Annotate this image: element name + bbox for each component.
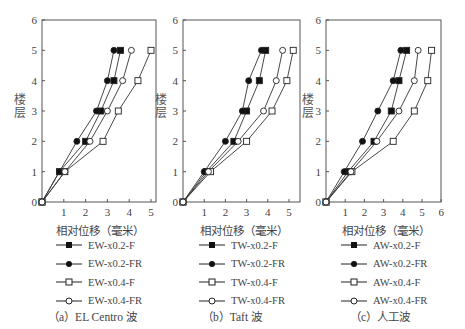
x-tick-label: 2 bbox=[362, 206, 368, 218]
open-square-marker-icon bbox=[429, 47, 435, 53]
open-circle-marker-icon bbox=[128, 47, 134, 53]
y-tick-label: 1 bbox=[316, 166, 322, 178]
open-circle-marker-icon bbox=[104, 108, 110, 114]
series-line bbox=[183, 50, 293, 202]
open-circle-marker-icon bbox=[56, 297, 82, 305]
open-circle-marker-icon bbox=[180, 199, 186, 205]
legend-item: EW-x0.2-F bbox=[56, 236, 142, 255]
y-label-char: 层 bbox=[155, 107, 168, 120]
y-tick-label: 0 bbox=[316, 196, 322, 208]
y-tick-label: 2 bbox=[173, 135, 179, 147]
caption-b: （b）Taft 波 bbox=[202, 308, 262, 324]
open-square-marker-icon bbox=[56, 278, 82, 286]
x-tick-label: 3 bbox=[244, 206, 250, 218]
y-tick-label: 5 bbox=[173, 44, 179, 56]
y-tick-label: 2 bbox=[316, 135, 322, 147]
open-circle-marker-icon bbox=[87, 138, 93, 144]
y-tick-label: 5 bbox=[316, 44, 322, 56]
series-line bbox=[183, 50, 266, 202]
open-circle-marker-icon bbox=[120, 78, 126, 84]
x-tick-label: 2 bbox=[83, 206, 89, 218]
x-tick-label: 1 bbox=[61, 206, 67, 218]
open-square-marker-icon bbox=[290, 47, 296, 53]
y-tick-label: 0 bbox=[32, 196, 38, 208]
legend-label: TW-x0.4-F bbox=[231, 277, 278, 288]
open-circle-marker-icon bbox=[280, 47, 286, 53]
series-line bbox=[183, 50, 283, 202]
legend-a: EW-x0.2-F EW-x0.2-FR EW-x0.4-F EW-x0.4-F… bbox=[56, 236, 142, 310]
open-square-marker-icon bbox=[284, 78, 290, 84]
open-square-marker-icon bbox=[244, 138, 250, 144]
open-circle-marker-icon bbox=[415, 47, 421, 53]
filled-square-marker-icon bbox=[404, 47, 410, 53]
filled-circle-marker-icon bbox=[199, 260, 225, 268]
series-line bbox=[326, 50, 407, 202]
series-line bbox=[183, 50, 261, 202]
series-line bbox=[326, 50, 432, 202]
y-tick-label: 1 bbox=[173, 166, 179, 178]
y-tick-label: 6 bbox=[316, 14, 322, 26]
legend-item: AW-x0.2-FR bbox=[341, 255, 427, 274]
filled-circle-marker-icon bbox=[74, 138, 80, 144]
open-square-marker-icon bbox=[148, 47, 154, 53]
open-circle-marker-icon bbox=[341, 297, 367, 305]
filled-circle-marker-icon bbox=[390, 78, 396, 84]
legend-label: AW-x0.4-FR bbox=[373, 295, 427, 306]
y-tick-label: 0 bbox=[173, 196, 179, 208]
caption-a: （a）EL Centro 波 bbox=[48, 308, 137, 324]
y-label-char: 层 bbox=[302, 107, 315, 120]
open-circle-marker-icon bbox=[235, 138, 241, 144]
legend-label: AW-x0.4-F bbox=[373, 277, 420, 288]
x-tick-label: 1 bbox=[342, 206, 348, 218]
legend-label: TW-x0.2-F bbox=[231, 240, 278, 251]
y-tick-label: 2 bbox=[32, 135, 38, 147]
open-circle-marker-icon bbox=[62, 169, 68, 175]
x-tick-label: 6 bbox=[438, 206, 444, 218]
legend-item: AW-x0.4-F bbox=[341, 273, 427, 292]
open-square-marker-icon bbox=[425, 78, 431, 84]
legend-b: TW-x0.2-F TW-x0.2-FR TW-x0.4-F TW-x0.4-F… bbox=[199, 236, 285, 310]
open-circle-marker-icon bbox=[261, 108, 267, 114]
legend-label: TW-x0.4-FR bbox=[231, 295, 285, 306]
legend-item: EW-x0.4-F bbox=[56, 273, 142, 292]
filled-square-marker-icon bbox=[117, 47, 123, 53]
y-tick-label: 4 bbox=[173, 75, 179, 87]
chart-panel-b: 012345612345 bbox=[173, 14, 301, 218]
filled-square-marker-icon bbox=[396, 78, 402, 84]
open-square-marker-icon bbox=[411, 108, 417, 114]
chart-panel-c: 0123456123456 bbox=[316, 14, 445, 218]
y-tick-label: 3 bbox=[316, 105, 322, 117]
filled-circle-marker-icon bbox=[246, 78, 252, 84]
x-tick-label: 4 bbox=[265, 206, 271, 218]
x-tick-label: 3 bbox=[381, 206, 387, 218]
filled-circle-marker-icon bbox=[239, 108, 245, 114]
caption-c: （c）人工波 bbox=[350, 308, 410, 324]
legend-item: AW-x0.2-F bbox=[341, 236, 427, 255]
legend-label: EW-x0.4-F bbox=[88, 277, 135, 288]
filled-circle-marker-icon bbox=[258, 47, 264, 53]
filled-circle-marker-icon bbox=[104, 78, 110, 84]
legend-item: TW-x0.2-F bbox=[199, 236, 285, 255]
filled-square-marker-icon bbox=[56, 241, 82, 249]
y-tick-label: 4 bbox=[32, 75, 38, 87]
y-axis-label-a: 楼 层 bbox=[14, 94, 27, 120]
y-axis-label-c: 楼 层 bbox=[302, 94, 315, 120]
open-circle-marker-icon bbox=[273, 78, 279, 84]
open-circle-marker-icon bbox=[396, 108, 402, 114]
legend-item: TW-x0.4-F bbox=[199, 273, 285, 292]
x-tick-label: 4 bbox=[126, 206, 132, 218]
legend-item: TW-x0.2-FR bbox=[199, 255, 285, 274]
open-circle-marker-icon bbox=[348, 169, 354, 175]
open-circle-marker-icon bbox=[374, 138, 380, 144]
y-tick-label: 1 bbox=[32, 166, 38, 178]
series-line bbox=[42, 50, 114, 202]
legend-label: AW-x0.2-F bbox=[373, 240, 420, 251]
open-circle-marker-icon bbox=[39, 199, 45, 205]
y-tick-label: 4 bbox=[316, 75, 322, 87]
filled-square-marker-icon bbox=[388, 108, 394, 114]
filled-circle-marker-icon bbox=[222, 138, 228, 144]
filled-square-marker-icon bbox=[111, 78, 117, 84]
open-square-marker-icon bbox=[199, 278, 225, 286]
legend-label: TW-x0.2-FR bbox=[231, 258, 285, 269]
open-circle-marker-icon bbox=[411, 78, 417, 84]
